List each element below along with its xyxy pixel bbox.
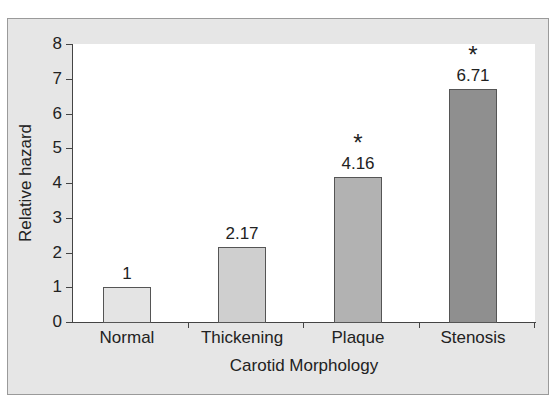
significance-asterisk: * [318, 133, 398, 153]
y-tick-mark [66, 322, 73, 323]
y-tick-label: 0 [40, 313, 62, 331]
bar-thickening [218, 247, 266, 323]
x-tick-mark [534, 322, 535, 328]
x-category-label: Thickening [184, 328, 300, 348]
y-tick-mark [66, 218, 73, 219]
y-tick-label: 2 [40, 244, 62, 262]
y-tick-label: 4 [40, 174, 62, 192]
y-axis-title: Relative hazard [16, 124, 36, 242]
bar-stenosis [449, 89, 497, 323]
y-tick-mark [66, 287, 73, 288]
bar-value-label: 4.16 [318, 155, 398, 173]
y-tick-label: 6 [40, 105, 62, 123]
x-category-label: Stenosis [415, 328, 531, 348]
bar-normal [103, 287, 151, 323]
y-tick-label: 3 [40, 209, 62, 227]
x-category-label: Normal [69, 328, 185, 348]
y-tick-label: 8 [40, 35, 62, 53]
bar-value-label: 6.71 [433, 67, 513, 85]
y-tick-mark [66, 183, 73, 184]
y-tick-label: 1 [40, 278, 62, 296]
y-tick-mark [66, 79, 73, 80]
y-tick-label: 5 [40, 139, 62, 157]
significance-asterisk: * [433, 45, 513, 65]
bar-plaque [334, 177, 382, 323]
bar-value-label: 2.17 [202, 225, 282, 243]
bar-value-label: 1 [87, 265, 167, 283]
y-tick-mark [66, 114, 73, 115]
x-category-label: Plaque [300, 328, 416, 348]
y-tick-mark [66, 253, 73, 254]
y-tick-mark [66, 44, 73, 45]
y-tick-mark [66, 148, 73, 149]
x-axis-title: Carotid Morphology [73, 356, 535, 376]
y-tick-label: 7 [40, 70, 62, 88]
